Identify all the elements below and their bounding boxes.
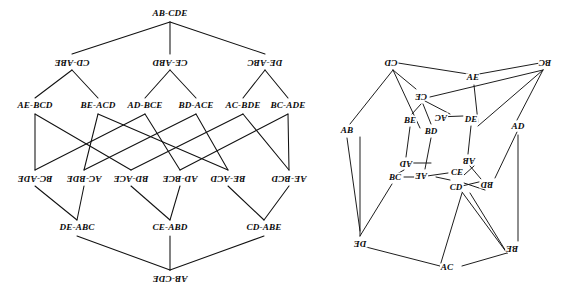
lattice-node-bd-ace: BD-ACE (178, 101, 215, 110)
lattice-node-be-acd: BE-ACD (210, 173, 247, 182)
lattice-node-ad-bce: AD-BCE (127, 101, 164, 110)
graph-edge (478, 70, 543, 126)
graph-edge (425, 138, 431, 169)
graph-edge (470, 193, 507, 253)
graph-edge (495, 132, 517, 178)
petersen-inner-node-ce: CE (450, 168, 464, 177)
lattice-node-ad-bce: AD-BCE (162, 173, 199, 182)
petersen-outer-node-ad: AD (511, 122, 526, 131)
figure-container: AB-CDECD-ABECE-ABDDE-ABCAE-BCDBE-ACDAD-B… (0, 0, 575, 294)
petersen-outer-node-ac: AC (440, 263, 454, 272)
graph-edge (347, 138, 360, 231)
lattice-node-de-abc: DE-ABC (59, 223, 96, 232)
graph-edge (398, 63, 468, 74)
petersen-outer-node-ae: AE (466, 73, 480, 82)
graph-edge (468, 126, 471, 154)
lattice-node-ac-bde: AC-BDE (225, 101, 262, 110)
petersen-outer-node-bc: BC (538, 57, 552, 66)
petersen-inner-node-cd: CD (449, 183, 464, 192)
graph-edge (436, 177, 450, 180)
lattice-node-bd-ace: BD-ACE (113, 173, 150, 182)
petersen-inner-node-ce: CE (414, 92, 428, 101)
petersen-inner-node-bc: BC (388, 173, 402, 182)
petersen-inner-node-bd: BD (424, 127, 439, 136)
graph-edge (406, 127, 410, 157)
lattice-node-ab-cde: AB-CDE (152, 273, 189, 282)
lattice-node-ac-bde: AC-BDE (66, 173, 103, 182)
graph-edge (430, 70, 543, 97)
graph-edge (423, 104, 431, 124)
petersen-inner-node-be: BE (403, 116, 417, 125)
graph-edge (470, 166, 481, 179)
lattice-node-bc-ade: BC-ADE (17, 173, 54, 182)
petersen-outer-node-cd: CD (384, 57, 399, 66)
graph-edge (427, 173, 448, 176)
lattice-node-ce-abd: CE-ABD (152, 57, 189, 66)
lattice-node-ab-cde: AB-CDE (152, 9, 189, 18)
lattice-node-ae-bcd: AE-BCD (271, 173, 308, 182)
graph-edge (462, 192, 507, 253)
lattice-node-cd-abe: CD-ABE (246, 223, 283, 232)
graph-edge (360, 184, 392, 236)
lattice-node-be-acd: BE-ACD (80, 101, 117, 110)
graph-edge (462, 253, 507, 266)
petersen-inner-node-de: DE (464, 115, 479, 124)
graph-edge (412, 104, 421, 114)
petersen-inner-node-ac: AC (434, 113, 448, 122)
lattice-node-bc-ade: BC-ADE (270, 101, 307, 110)
petersen-inner-node-bd: BD (480, 180, 495, 189)
petersen-inner-node-ad: AD (399, 159, 414, 168)
petersen-outer-node-be: BE (505, 243, 519, 252)
lattice-node-de-abc: DE-ABC (247, 57, 284, 66)
graph-edge (366, 247, 440, 266)
lattice-node-ce-abd: CE-ABD (152, 223, 189, 232)
graph-edge (393, 70, 416, 89)
graph-edge (440, 193, 462, 266)
petersen-outer-node-ab: AB (340, 126, 354, 135)
graph-edge (517, 70, 543, 120)
petersen-inner-node-ab: AB (462, 156, 476, 165)
petersen-inner-node-ae: AE (414, 171, 428, 180)
graph-edge (464, 166, 474, 175)
lattice-node-ae-bcd: AE-BCD (17, 101, 54, 110)
petersen-edges (0, 0, 575, 294)
petersen-outer-node-de: DE (353, 238, 368, 247)
graph-edge (350, 70, 393, 124)
lattice-node-cd-abe: CD-ABE (54, 57, 91, 66)
graph-edge (479, 63, 540, 74)
